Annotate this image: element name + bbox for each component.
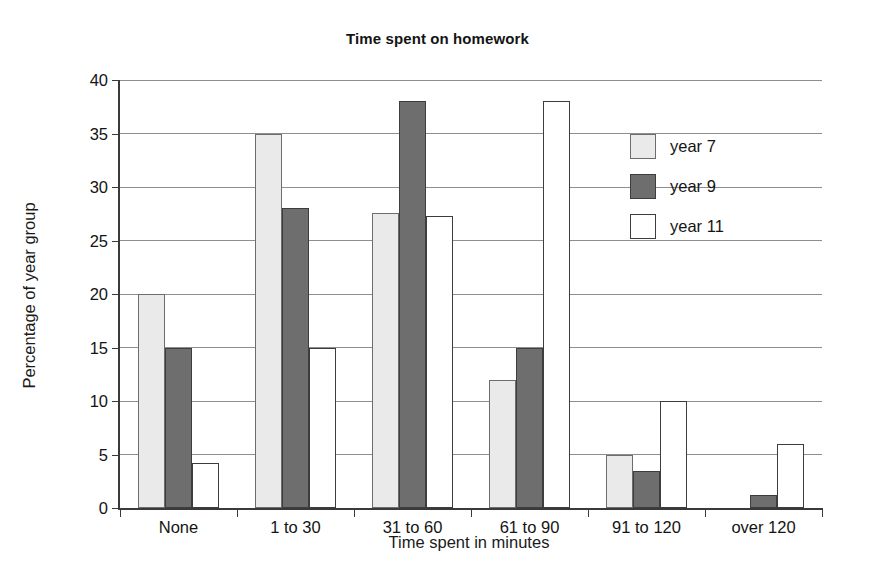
- y-axis-tick-label: 15: [90, 339, 108, 356]
- y-axis-tick-label: 30: [90, 179, 108, 196]
- y-axis-tick-label: 20: [90, 286, 108, 303]
- chart-title: Time spent on homework: [0, 30, 875, 47]
- bar-year-11-over-120: [777, 444, 804, 508]
- chart-page: Time spent on homework Percentage of yea…: [0, 0, 875, 583]
- y-axis-tick-mark: [112, 241, 120, 242]
- x-axis-tick-mark: [237, 508, 238, 517]
- legend-swatch-year-9: [630, 174, 656, 199]
- legend-item-year-7: year 7: [630, 126, 805, 166]
- bar-year-7-61-to-90: [489, 380, 516, 508]
- legend-label: year 11: [670, 217, 724, 236]
- legend-item-year-11: year 11: [630, 206, 805, 246]
- bar-year-9-over-120: [750, 495, 777, 508]
- y-axis-tick-mark: [112, 187, 120, 188]
- legend: year 7year 9year 11: [630, 126, 805, 246]
- bar-year-7-1-to-30: [255, 134, 282, 509]
- legend-label: year 9: [670, 177, 716, 196]
- y-axis-tick-mark: [112, 508, 120, 509]
- y-axis-tick-label: 10: [90, 393, 108, 410]
- y-axis-label: Percentage of year group: [20, 202, 39, 388]
- bar-year-7-31-to-60: [372, 213, 399, 508]
- bar-year-7-None: [138, 294, 165, 508]
- bar-year-11-31-to-60: [426, 216, 453, 508]
- x-axis-tick-mark: [705, 508, 706, 517]
- x-axis-tick-mark: [120, 508, 121, 517]
- bar-year-9-31-to-60: [399, 101, 426, 508]
- bar-year-11-91-to-120: [660, 401, 687, 508]
- x-axis-tick-mark: [822, 508, 823, 517]
- y-axis-tick-mark: [112, 80, 120, 81]
- x-axis-tick-mark: [354, 508, 355, 517]
- y-axis-tick-label: 35: [90, 125, 108, 142]
- legend-item-year-9: year 9: [630, 166, 805, 206]
- bar-year-9-91-to-120: [633, 471, 660, 508]
- y-axis-label-container: Percentage of year group: [14, 80, 44, 510]
- bar-year-7-91-to-120: [606, 455, 633, 509]
- y-axis-tick-mark: [112, 134, 120, 135]
- y-axis-tick-label: 0: [99, 500, 108, 517]
- y-axis-tick-label: 5: [99, 446, 108, 463]
- x-axis-label: Time spent in minutes: [118, 533, 820, 552]
- y-axis-tick-label: 40: [90, 72, 108, 89]
- bar-year-9-None: [165, 348, 192, 509]
- y-axis-tick-mark: [112, 348, 120, 349]
- x-axis-tick-mark: [471, 508, 472, 517]
- y-axis-tick-label: 25: [90, 232, 108, 249]
- x-axis-tick-mark: [588, 508, 589, 517]
- legend-label: year 7: [670, 137, 716, 156]
- y-axis-tick-mark: [112, 455, 120, 456]
- bar-year-11-None: [192, 463, 219, 508]
- y-axis-tick-mark: [112, 294, 120, 295]
- bar-year-9-61-to-90: [516, 348, 543, 509]
- bar-year-11-1-to-30: [309, 348, 336, 509]
- legend-swatch-year-7: [630, 134, 656, 159]
- y-axis-tick-mark: [112, 401, 120, 402]
- bar-year-11-61-to-90: [543, 101, 570, 508]
- legend-swatch-year-11: [630, 214, 656, 239]
- bar-year-9-1-to-30: [282, 208, 309, 508]
